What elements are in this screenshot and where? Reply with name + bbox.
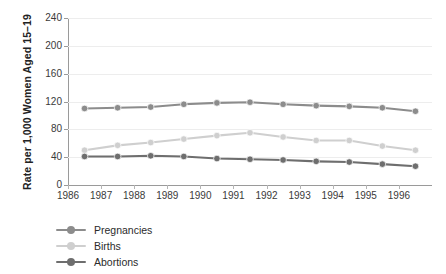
- x-tick-mark: [134, 185, 135, 189]
- data-point: [81, 105, 88, 112]
- legend-item-abortions[interactable]: Abortions: [56, 254, 152, 270]
- data-point: [247, 156, 254, 163]
- data-point: [412, 163, 419, 170]
- legend-swatch: [56, 224, 86, 236]
- data-point: [346, 103, 353, 110]
- data-point: [214, 100, 221, 107]
- data-point: [412, 147, 419, 154]
- legend-item-births[interactable]: Births: [56, 238, 152, 254]
- x-tick-label: 1996: [379, 190, 419, 201]
- x-tick-mark: [68, 185, 69, 189]
- data-point: [379, 104, 386, 111]
- data-point: [147, 139, 154, 146]
- series-abortions: [81, 152, 419, 169]
- data-point: [81, 153, 88, 160]
- x-tick-mark: [300, 185, 301, 189]
- x-tick-mark: [167, 185, 168, 189]
- data-point: [313, 158, 320, 165]
- data-point: [114, 153, 121, 160]
- data-point: [280, 157, 287, 164]
- x-tick-mark: [267, 185, 268, 189]
- data-point: [214, 132, 221, 139]
- legend-label: Births: [94, 240, 121, 252]
- legend-marker-dot-icon: [67, 258, 75, 266]
- x-tick-mark: [399, 185, 400, 189]
- series-layer: [68, 18, 432, 185]
- data-point: [412, 108, 419, 115]
- data-point: [147, 104, 154, 111]
- data-point: [114, 142, 121, 149]
- x-tick-mark: [333, 185, 334, 189]
- x-tick-mark: [233, 185, 234, 189]
- data-point: [214, 155, 221, 162]
- legend-swatch: [56, 240, 86, 252]
- data-point: [181, 136, 188, 143]
- legend-label: Pregnancies: [94, 224, 152, 236]
- data-point: [346, 137, 353, 144]
- data-point: [181, 153, 188, 160]
- data-point: [379, 143, 386, 150]
- x-tick-mark: [200, 185, 201, 189]
- data-point: [181, 101, 188, 108]
- data-point: [280, 134, 287, 141]
- data-point: [114, 104, 121, 111]
- legend-swatch: [56, 256, 86, 268]
- x-tick-mark: [366, 185, 367, 189]
- data-point: [247, 99, 254, 106]
- legend-item-pregnancies[interactable]: Pregnancies: [56, 222, 152, 238]
- data-point: [247, 130, 254, 137]
- series-pregnancies: [81, 99, 419, 115]
- legend-marker-dot-icon: [67, 226, 75, 234]
- x-tick-mark: [101, 185, 102, 189]
- chart-container: Rate per 1,000 Women Aged 15–19 04080120…: [0, 0, 446, 274]
- data-point: [379, 161, 386, 168]
- legend-marker-dot-icon: [67, 242, 75, 250]
- data-point: [280, 101, 287, 108]
- series-births: [81, 130, 419, 154]
- data-point: [346, 159, 353, 166]
- data-point: [313, 137, 320, 144]
- chart-legend: PregnanciesBirthsAbortions: [56, 222, 152, 270]
- data-point: [147, 152, 154, 159]
- data-point: [313, 102, 320, 109]
- legend-label: Abortions: [94, 256, 138, 268]
- data-point: [81, 147, 88, 154]
